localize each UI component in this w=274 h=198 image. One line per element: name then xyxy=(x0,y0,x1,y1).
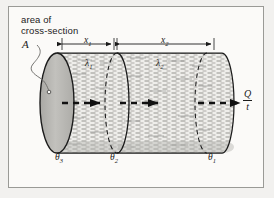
length-x2-label: x2 xyxy=(161,35,168,47)
length-x1-subscript: 1 xyxy=(88,40,91,47)
conductivity-lambda1-label: λ1 xyxy=(85,58,92,70)
temperature-theta1-label: θ1 xyxy=(208,152,216,164)
length-x1-label: x1 xyxy=(84,35,91,47)
heat-rate-numerator: Q xyxy=(243,88,252,101)
cross-section-face xyxy=(40,53,74,153)
temperature-theta1-subscript: 1 xyxy=(213,157,216,164)
temperature-theta2-label: θ2 xyxy=(110,152,118,164)
length-x2-subscript: 2 xyxy=(165,40,168,47)
area-symbol-label: A xyxy=(22,38,29,51)
conductivity-lambda2-label: λ2 xyxy=(156,58,163,70)
heat-rate-label: Q t xyxy=(243,88,252,112)
diagram-root: area of cross-section A x1 x2 λ1 λ2 θ3 θ… xyxy=(0,0,274,198)
temperature-theta3-subscript: 3 xyxy=(60,157,63,164)
cross-section-caption: area of cross-section xyxy=(21,15,78,37)
conductivity-lambda1-subscript: 1 xyxy=(89,63,92,70)
cross-section-caption-line2: cross-section xyxy=(21,25,78,36)
temperature-theta2-subscript: 2 xyxy=(115,157,118,164)
heat-rate-denominator: t xyxy=(243,101,252,113)
temperature-theta3-label: θ3 xyxy=(55,152,63,164)
cross-section-caption-line1: area of xyxy=(21,14,51,25)
conductivity-lambda2-subscript: 2 xyxy=(160,63,163,70)
